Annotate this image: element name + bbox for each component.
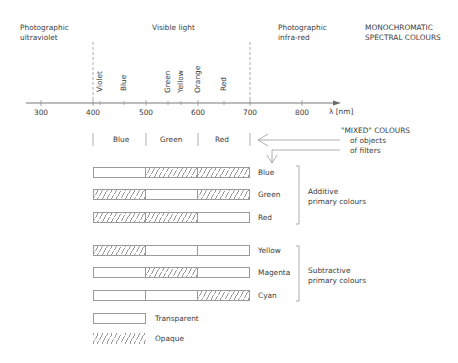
subtractive-bracket bbox=[296, 246, 299, 301]
legend-transparent-swatch bbox=[93, 313, 146, 324]
spectral-label-yellow: Yellow bbox=[176, 70, 185, 93]
additive-label-green: Green bbox=[258, 190, 280, 200]
tick-label-400: 400 bbox=[78, 108, 108, 117]
segment-transparent bbox=[94, 168, 145, 177]
segment-transparent bbox=[145, 190, 197, 199]
segment-opaque bbox=[145, 268, 197, 277]
mixed-colours-title: "MIXED" COLOURS bbox=[341, 126, 410, 136]
segment-opaque bbox=[197, 190, 249, 199]
spectral-label-red: Red bbox=[219, 77, 228, 91]
segment-opaque bbox=[94, 190, 145, 199]
band-label-blue: Blue bbox=[113, 135, 129, 145]
additive-label-red: Red bbox=[258, 213, 272, 223]
axis-arrowhead-icon bbox=[333, 101, 341, 106]
spectral-label-orange: Orange bbox=[193, 66, 202, 93]
tick-label-800: 800 bbox=[287, 108, 317, 117]
segment-opaque bbox=[197, 168, 249, 177]
subtractive-group-label: Subtractive primary colours bbox=[308, 266, 366, 285]
subtractive-bar-yellow bbox=[93, 245, 250, 256]
tick-label-600: 600 bbox=[183, 108, 213, 117]
additive-bracket bbox=[296, 166, 299, 224]
spectral-label-violet: Violet bbox=[95, 71, 104, 92]
legend-transparent-label: Transparent bbox=[155, 314, 199, 324]
additive-bar-red bbox=[93, 212, 250, 223]
segment-transparent bbox=[94, 291, 145, 300]
tick-label-700: 700 bbox=[235, 108, 265, 117]
filters-arrow-line bbox=[272, 150, 340, 163]
legend-opaque-swatch bbox=[93, 333, 146, 344]
segment-opaque bbox=[145, 213, 197, 222]
additive-label-blue: Blue bbox=[258, 168, 274, 178]
subtractive-line-2: primary colours bbox=[308, 276, 366, 286]
subtractive-bar-magenta bbox=[93, 267, 250, 278]
subtractive-label-magenta: Magenta bbox=[258, 268, 290, 278]
segment-transparent bbox=[197, 268, 249, 277]
tick-label-300: 300 bbox=[26, 108, 56, 117]
segment-transparent bbox=[197, 213, 249, 222]
band-label-green: Green bbox=[160, 135, 182, 145]
axis-label: λ [nm] bbox=[329, 107, 353, 117]
spectral-label-blue: Blue bbox=[119, 75, 128, 91]
diagram-lines bbox=[0, 0, 458, 363]
additive-line-1: Additive bbox=[308, 187, 366, 197]
segment-opaque bbox=[94, 213, 145, 222]
additive-line-2: primary colours bbox=[308, 197, 366, 207]
subtractive-label-yellow: Yellow bbox=[258, 246, 281, 256]
subtractive-label-cyan: Cyan bbox=[258, 291, 277, 301]
mixed-filters-label: of filters bbox=[350, 146, 381, 156]
segment-transparent bbox=[145, 291, 197, 300]
subtractive-line-1: Subtractive bbox=[308, 266, 366, 276]
additive-group-label: Additive primary colours bbox=[308, 187, 366, 206]
legend-opaque-label: Opaque bbox=[155, 334, 184, 344]
mixed-objects-label: of objects bbox=[350, 136, 386, 146]
segment-opaque bbox=[197, 291, 249, 300]
segment-opaque bbox=[94, 246, 145, 255]
additive-bar-green bbox=[93, 189, 250, 200]
tick-label-500: 500 bbox=[131, 108, 161, 117]
subtractive-bar-cyan bbox=[93, 290, 250, 301]
segment-transparent bbox=[197, 246, 249, 255]
segment-transparent bbox=[145, 246, 197, 255]
spectral-label-green: Green bbox=[163, 71, 172, 93]
additive-bar-blue bbox=[93, 167, 250, 178]
segment-transparent bbox=[94, 268, 145, 277]
band-label-red: Red bbox=[215, 135, 229, 145]
segment-opaque bbox=[145, 168, 197, 177]
